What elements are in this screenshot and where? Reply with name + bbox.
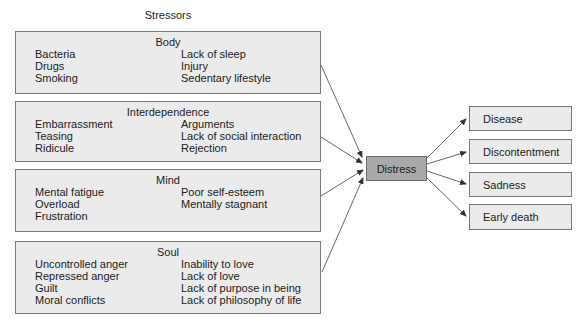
outcome-disease: Disease: [469, 106, 572, 131]
arrow-interdependence-to-distress: [321, 137, 362, 163]
arrows: [0, 0, 586, 330]
arrow-to-early-death: [427, 178, 466, 216]
outcome-sadness: Sadness: [469, 172, 572, 197]
outcome-early-death: Early death: [469, 204, 572, 230]
distress-box: Distress: [366, 156, 427, 181]
arrow-soul-to-distress: [322, 178, 363, 272]
arrow-body-to-distress: [321, 65, 362, 157]
arrow-to-sadness: [427, 171, 466, 184]
outcome-discontentment: Discontentment: [469, 139, 572, 164]
arrow-to-disease: [427, 119, 466, 158]
arrow-to-discontentment: [427, 152, 466, 164]
